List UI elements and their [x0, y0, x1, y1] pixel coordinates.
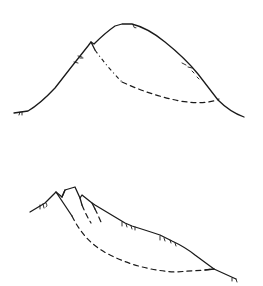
scarps-bottom — [56, 190, 95, 216]
hill-profile-diagram-top — [0, 0, 263, 143]
vegetation-tufts-top — [19, 25, 199, 115]
slope-profile-diagram-bottom — [0, 143, 263, 286]
ground-profile-bottom — [30, 187, 236, 279]
ground-profile-top — [14, 24, 244, 117]
toe-bulge-bottom — [205, 269, 214, 270]
hill-profile-svg-top — [0, 0, 263, 143]
slip-surface-inner-2 — [95, 209, 101, 222]
slip-surface-top — [122, 82, 219, 103]
slip-surface-upper-top — [95, 50, 122, 82]
slope-profile-svg-bottom — [0, 143, 263, 286]
slip-surface-inner-1 — [82, 205, 91, 223]
slip-surface-main-bottom — [72, 216, 214, 272]
